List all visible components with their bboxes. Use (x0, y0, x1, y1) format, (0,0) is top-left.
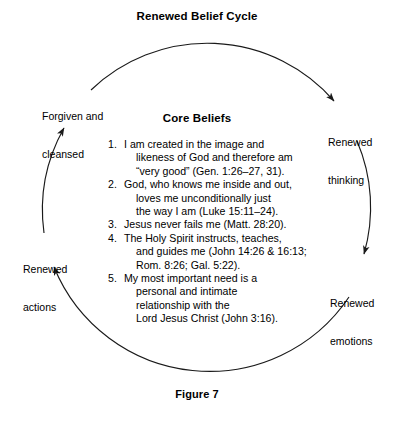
page-title: Renewed Belief Cycle (0, 10, 394, 24)
core-belief-line: “very good” (Gen. 1:26–27, 31). (124, 165, 318, 178)
cycle-node-label-line1: Renewed (23, 263, 67, 276)
core-belief-line: loves me unconditionally just (124, 192, 318, 205)
core-belief-number: 3. (108, 218, 122, 231)
core-belief-number: 4. (108, 232, 122, 245)
core-belief-line: likeness of God and therefore am (124, 151, 318, 164)
core-beliefs-list: 1.I am created in the image andlikeness … (108, 138, 318, 325)
core-belief-line: Rom. 8:26; Gal. 5:22). (124, 259, 318, 272)
cycle-node-renewed-thinking: Renewed thinking (328, 110, 372, 212)
figure-caption: Figure 7 (0, 388, 394, 401)
core-belief-line: I am created in the image and (124, 138, 318, 151)
core-belief-item: 5.My most important need is apersonal an… (108, 272, 318, 326)
core-belief-number: 5. (108, 272, 122, 285)
core-belief-item: 3.Jesus never fails me (Matt. 28:20). (108, 218, 318, 231)
core-belief-line: Jesus never fails me (Matt. 28:20). (124, 218, 318, 231)
core-belief-item: 1.I am created in the image andlikeness … (108, 138, 318, 178)
arc-forgiven-to-thinking (91, 43, 334, 101)
cycle-node-forgiven-and-cleansed: Forgiven and cleansed (42, 84, 103, 186)
core-belief-line: relationship with the (124, 299, 318, 312)
cycle-node-label-line2: thinking (328, 174, 372, 187)
core-belief-line: and guides me (John 14:26 & 16:13; (124, 245, 318, 258)
cycle-node-label-line1: Renewed (328, 136, 372, 149)
core-belief-line: The Holy Spirit instructs, teaches, (124, 232, 318, 245)
cycle-node-label-line1: Forgiven and (42, 110, 103, 123)
core-belief-number: 2. (108, 178, 122, 191)
cycle-node-label-line2: cleansed (42, 148, 103, 161)
renewed-belief-cycle-figure: Renewed Belief Cycle Core Beliefs Forgiv… (0, 0, 394, 421)
cycle-node-renewed-emotions: Renewed emotions (330, 271, 374, 373)
core-belief-line: personal and intimate (124, 285, 318, 298)
cycle-node-label-line2: emotions (330, 335, 374, 348)
core-belief-line: the way I am (Luke 15:11–24). (124, 205, 318, 218)
cycle-node-label-line1: Renewed (330, 297, 374, 310)
core-belief-item: 4.The Holy Spirit instructs, teaches,and… (108, 232, 318, 272)
core-belief-number: 1. (108, 138, 122, 151)
cycle-node-renewed-actions: Renewed actions (23, 237, 67, 339)
cycle-node-label-line2: actions (23, 301, 67, 314)
core-belief-line: Lord Jesus Christ (John 3:16). (124, 312, 318, 325)
core-belief-item: 2.God, who knows me inside and out,loves… (108, 178, 318, 218)
core-belief-line: God, who knows me inside and out, (124, 178, 318, 191)
core-belief-line: My most important need is a (124, 272, 318, 285)
